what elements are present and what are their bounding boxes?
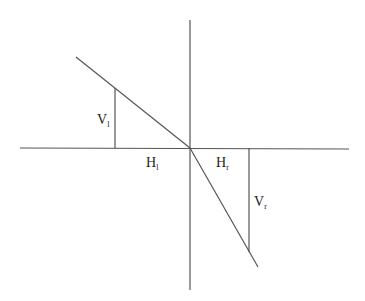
left-diagonal-line [76,57,190,148]
label-h-left: Hl [146,155,159,172]
horizontal-axis [20,148,349,149]
diagram-svg: Vl Hl Hr Vr [0,0,365,301]
label-v-left: Vl [97,112,110,129]
label-h-right: Hr [216,155,229,172]
diagram-canvas: Vl Hl Hr Vr [0,0,365,301]
label-v-right: Vr [254,194,267,211]
